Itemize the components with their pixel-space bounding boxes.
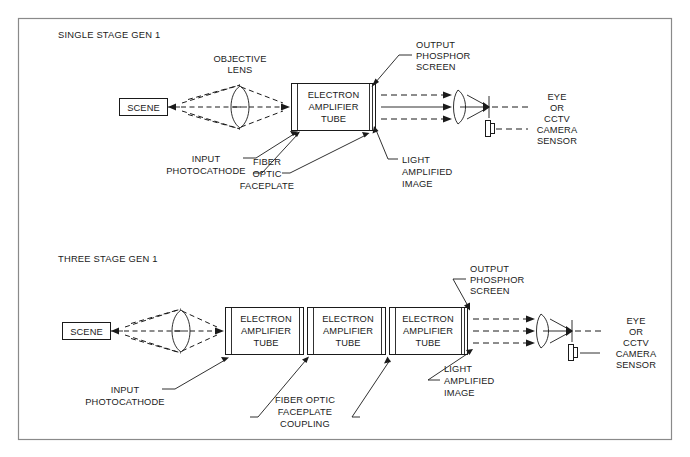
input-line2-single: PHOTOCATHODE	[166, 166, 245, 176]
fiber-line2-single: OPTIC	[252, 169, 281, 179]
tube2-label-line1: ELECTRON	[322, 314, 373, 324]
tube1-label-line2: AMPLIFIER	[241, 326, 291, 336]
cctv-sensor-icon-single	[486, 121, 529, 137]
scene-arrow-single	[168, 104, 180, 111]
output-rays-single	[381, 91, 452, 122]
output-line3-three: SCREEN	[470, 286, 510, 296]
electron-amplifier-tube-3: ELECTRON AMPLIFIER TUBE	[390, 308, 468, 355]
fiber-optic-faceplate-coupling-label-three: FIBER OPTIC FACEPLATE COUPLING	[250, 357, 391, 430]
image-intensifier-diagram: SINGLE STAGE GEN 1 SCENE	[0, 0, 690, 457]
output-line3-single: SCREEN	[416, 62, 456, 72]
output-phosphor-screen-label-single: OUTPUT PHOSPHOR SCREEN	[372, 40, 471, 87]
eye-line4-three: CAMERA	[616, 349, 657, 359]
fiber-optic-faceplate-label-single: FIBER OPTIC FACEPLATE	[240, 132, 370, 192]
light-line3-three: IMAGE	[444, 388, 475, 398]
fiber-line1-single: FIBER	[253, 157, 281, 167]
scene-box-single: SCENE	[120, 99, 168, 116]
objective-lens-label-single: OBJECTIVE LENS	[213, 54, 266, 75]
figure-border	[19, 19, 672, 440]
input-line2-three: PHOTOCATHODE	[85, 397, 164, 407]
output-line2-single: PHOSPHOR	[416, 51, 471, 61]
scene-label-three: SCENE	[70, 327, 103, 337]
light-amplified-image-label-three: LIGHT AMPLIFIED IMAGE	[428, 349, 495, 398]
light-line1-single: LIGHT	[402, 155, 430, 165]
scene-box-three: SCENE	[63, 323, 111, 340]
figure-page: SINGLE STAGE GEN 1 SCENE	[0, 0, 690, 457]
ray-bundle-lens-to-tube-three	[182, 311, 224, 351]
objective-lens-three	[172, 310, 190, 352]
objective-lens-line1: OBJECTIVE	[213, 54, 266, 64]
tube3-label-line2: AMPLIFIER	[403, 326, 453, 336]
ray-bundle-scene-to-lens-three	[124, 309, 182, 353]
tube-label-line3-single: TUBE	[321, 114, 346, 124]
ray-bundle-lens-to-tube-single	[241, 87, 290, 127]
electron-amplifier-tube-single: ELECTRON AMPLIFIER TUBE	[292, 84, 376, 131]
fiber-line2-three: FACEPLATE	[278, 407, 332, 417]
eye-assembly-single	[454, 90, 529, 124]
eye-line1-three: EYE	[626, 316, 645, 326]
eye-line3-three: CCTV	[623, 338, 650, 348]
eye-line3-single: CCTV	[544, 114, 571, 124]
three-stage-title: THREE STAGE GEN 1	[58, 253, 158, 264]
output-line1-single: OUTPUT	[416, 40, 455, 50]
input-photocathode-label-three: INPUT PHOTOCATHODE	[85, 357, 229, 407]
light-line1-three: LIGHT	[444, 364, 472, 374]
electron-amplifier-tube-1: ELECTRON AMPLIFIER TUBE	[226, 308, 304, 355]
ray-bundle-scene-to-lens-single	[181, 85, 241, 129]
eye-line4-single: CAMERA	[537, 125, 578, 135]
output-rays-three	[473, 315, 535, 346]
input-line1-single: INPUT	[192, 154, 221, 164]
tube-label-line2-single: AMPLIFIER	[309, 102, 359, 112]
eye-line2-three: OR	[629, 327, 643, 337]
light-amplified-image-label-single: LIGHT AMPLIFIED IMAGE	[373, 126, 453, 189]
fiber-line1-three: FIBER OPTIC	[275, 395, 335, 405]
eye-line2-single: OR	[550, 103, 564, 113]
electron-amplifier-tube-2: ELECTRON AMPLIFIER TUBE	[308, 308, 386, 355]
light-line2-three: AMPLIFIED	[444, 376, 495, 386]
light-line3-single: IMAGE	[402, 179, 433, 189]
fiber-line3-three: COUPLING	[280, 419, 330, 429]
output-phosphor-screen-label-three: OUTPUT PHOSPHOR SCREEN	[453, 264, 525, 311]
scene-arrow-three	[111, 328, 123, 335]
objective-lens-single	[231, 86, 249, 128]
tube3-label-line3: TUBE	[415, 338, 440, 348]
output-line2-three: PHOSPHOR	[470, 275, 525, 285]
tube2-label-line3: TUBE	[335, 338, 360, 348]
tube1-label-line3: TUBE	[253, 338, 278, 348]
output-line1-three: OUTPUT	[470, 264, 509, 274]
objective-lens-line2: LENS	[228, 65, 253, 75]
cctv-sensor-icon-three	[569, 345, 601, 361]
eye-line1-single: EYE	[547, 92, 566, 102]
eye-line5-three: SENSOR	[616, 360, 656, 370]
input-line1-three: INPUT	[111, 385, 140, 395]
diagram-three-stage: THREE STAGE GEN 1 SCENE	[58, 253, 657, 429]
tube2-label-line2: AMPLIFIER	[323, 326, 373, 336]
tube-label-line1-single: ELECTRON	[308, 90, 359, 100]
fiber-line3-single: FACEPLATE	[240, 181, 294, 191]
eye-assembly-three	[537, 314, 606, 348]
tube1-label-line1: ELECTRON	[240, 314, 291, 324]
light-line2-single: AMPLIFIED	[402, 167, 453, 177]
single-stage-title: SINGLE STAGE GEN 1	[58, 29, 160, 40]
eye-or-cctv-label-single: EYE OR CCTV CAMERA SENSOR	[537, 92, 578, 146]
eye-line5-single: SENSOR	[537, 136, 577, 146]
diagram-single-stage: SINGLE STAGE GEN 1 SCENE	[58, 29, 578, 191]
tube3-label-line1: ELECTRON	[402, 314, 453, 324]
scene-label-single: SCENE	[127, 103, 160, 113]
eye-or-cctv-label-three: EYE OR CCTV CAMERA SENSOR	[616, 316, 657, 370]
